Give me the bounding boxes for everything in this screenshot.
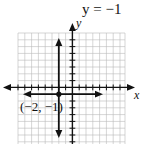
grid [18, 33, 125, 144]
point-label: (−2, −1) [20, 99, 63, 115]
coordinate-graph [0, 0, 143, 144]
y-axis-label: y [76, 16, 81, 31]
x-axis-label: x [134, 88, 139, 103]
graph-title: y = −1 [82, 1, 121, 18]
y-axis [69, 23, 76, 144]
intersection-point [56, 92, 61, 97]
x-axis [3, 84, 135, 91]
horizontal-line-y-neg1 [23, 91, 103, 98]
